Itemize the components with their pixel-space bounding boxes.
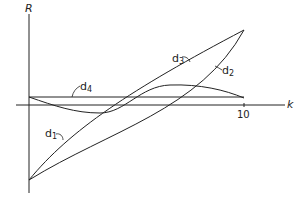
x-tick-label-10: 10 (237, 110, 250, 120)
label-d2: d2 (222, 65, 234, 78)
y-axis-label: R (25, 3, 33, 14)
label-d1-letter: d (45, 127, 52, 140)
label-d4-sub: 4 (87, 85, 92, 94)
curve-wave (29, 85, 244, 113)
label-d1: d1 (45, 128, 57, 141)
plot-canvas (0, 0, 305, 201)
label-d3-sub: 3 (179, 57, 184, 66)
label-d2-letter: d (222, 64, 229, 77)
label-d3: d3 (172, 53, 184, 66)
label-d1-sub: 1 (52, 132, 57, 141)
label-d4: d4 (80, 81, 92, 94)
diagram: R k 10 d1 d2 d3 d4 (0, 0, 305, 201)
label-d4-letter: d (80, 80, 87, 93)
leader-d4 (72, 86, 80, 97)
label-d2-sub: 2 (229, 69, 234, 78)
label-d3-letter: d (172, 52, 179, 65)
x-axis-label: k (287, 99, 293, 110)
